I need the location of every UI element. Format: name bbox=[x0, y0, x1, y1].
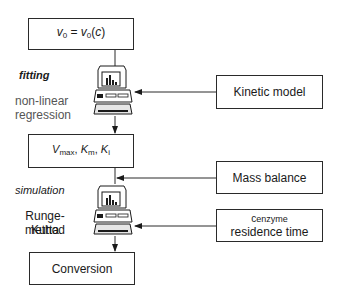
conversion-label: Conversion bbox=[52, 262, 113, 276]
initial-rate-box: v0 = v0(c) bbox=[28, 18, 134, 50]
conversion-box: Conversion bbox=[29, 252, 135, 285]
runge-kutta-label-line2: method bbox=[14, 223, 76, 237]
residence-time-label: residence time bbox=[230, 225, 308, 239]
subscript: i bbox=[108, 148, 110, 157]
enzyme-residence-box: cenzyme residence time bbox=[216, 209, 323, 242]
parameters-text: Vmax, Km, Ki bbox=[52, 142, 110, 160]
parameters-box: Vmax, Km, Ki bbox=[28, 134, 134, 168]
initial-rate-equation: v0 = v0(c) bbox=[57, 25, 106, 43]
nonlinear-label-line1: non-linear bbox=[15, 94, 68, 108]
paren: ) bbox=[101, 25, 105, 39]
fitting-label: fitting bbox=[19, 68, 50, 82]
km-symbol: K bbox=[81, 143, 88, 155]
nonlinear-label-line2: regression bbox=[15, 108, 71, 122]
kinetic-model-label: Kinetic model bbox=[233, 85, 305, 99]
subscript: max bbox=[59, 148, 74, 157]
enzyme-concentration: cenzyme bbox=[251, 213, 288, 225]
simulation-label: simulation bbox=[15, 183, 65, 197]
kinetic-model-box: Kinetic model bbox=[216, 75, 323, 109]
mass-balance-box: Mass balance bbox=[216, 161, 323, 194]
equals: = bbox=[67, 25, 81, 39]
mass-balance-label: Mass balance bbox=[232, 171, 306, 185]
subscript: m bbox=[88, 148, 95, 157]
subscript: enzyme bbox=[256, 214, 288, 224]
